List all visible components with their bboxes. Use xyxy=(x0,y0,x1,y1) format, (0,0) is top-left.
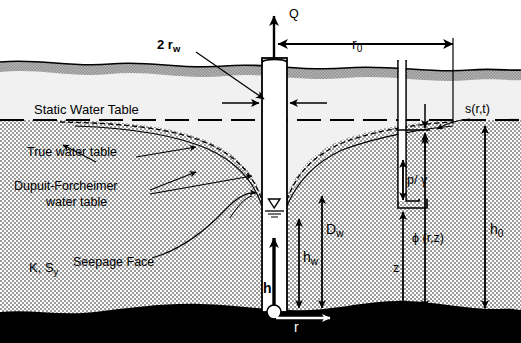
label-radius-of-influence: r0 xyxy=(352,37,362,54)
diagram-root: Q 2 rw r0 Static Water Table True water … xyxy=(0,0,521,343)
label-aquifer-props-sub: y xyxy=(54,267,59,277)
label-total-head: ϕ (r,z) xyxy=(412,232,444,245)
well-cap xyxy=(262,59,287,62)
label-r0-sub: 0 xyxy=(357,43,363,54)
label-static-water-table: Static Water Table xyxy=(34,103,139,116)
label-initial-saturated-thickness: h0 xyxy=(490,222,503,239)
label-aquifer-properties: K, Sy xyxy=(29,261,58,277)
label-radial-distance: r xyxy=(294,320,299,334)
label-drawdown: s(r,t) xyxy=(465,103,490,116)
label-hw-sub: w xyxy=(311,256,318,267)
label-well-diameter-sub: w xyxy=(173,44,180,54)
label-Dw-sub: w xyxy=(336,228,343,239)
label-well-diameter-main: 2 r xyxy=(157,37,173,52)
label-dupuit-line1: Dupuit-Forcheimer xyxy=(14,180,118,193)
label-well-diameter: 2 rw xyxy=(157,38,180,54)
hydrogeology-cross-section xyxy=(0,0,521,343)
label-pressure-head: p/ γ xyxy=(407,174,427,187)
label-discharge: Q xyxy=(289,8,299,21)
label-head-in-well: h xyxy=(263,281,272,295)
label-water-depth-in-well: hw xyxy=(303,250,318,267)
label-hw-main: h xyxy=(303,249,311,265)
piezometer-bore xyxy=(399,61,405,201)
label-dupuit-line2: water table xyxy=(46,196,107,209)
label-true-water-table: True water table xyxy=(27,146,117,159)
label-Dw-main: D xyxy=(326,221,336,237)
label-seepage-face: Seepage Face xyxy=(73,256,154,269)
label-h0-main: h xyxy=(490,221,498,237)
label-well-depth: Dw xyxy=(326,222,343,239)
label-h0-sub: 0 xyxy=(498,228,504,239)
label-elevation: z xyxy=(393,262,399,275)
label-aquifer-props-main: K, S xyxy=(29,260,54,275)
